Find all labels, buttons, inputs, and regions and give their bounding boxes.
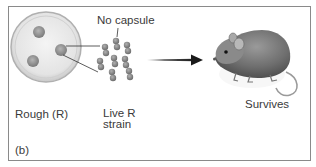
callout-line [117, 28, 118, 37]
diagram-illustration [0, 0, 316, 167]
panel-id-label: (b) [15, 144, 29, 156]
no-capsule-callout: No capsule [97, 14, 155, 26]
mouse-icon [213, 30, 297, 96]
arrow-right-icon [147, 55, 203, 66]
strain-label-line2: strain [103, 118, 131, 130]
outcome-label: Survives [245, 98, 289, 110]
dish-label: Rough (R) [15, 108, 68, 120]
petri-dish-icon [11, 12, 81, 82]
bacteria-cluster-icon [97, 38, 133, 81]
